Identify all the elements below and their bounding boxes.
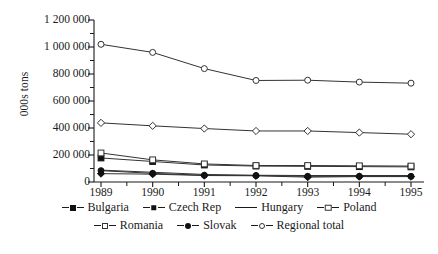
series-marker-regional-total: [253, 77, 259, 83]
legend-line-segment: [62, 207, 69, 208]
legend-symbol-czech-rep: [143, 202, 165, 214]
series-marker-regional-total: [98, 41, 104, 47]
series-marker-poland: [201, 125, 208, 132]
series-marker-romania: [305, 163, 311, 169]
legend-item-hungary[interactable]: Hungary: [235, 201, 303, 214]
legend-marker-circle-filled-icon: [185, 223, 191, 229]
x-axis-tick-label: 1991: [181, 186, 227, 199]
legend-item-romania[interactable]: Romania: [94, 219, 163, 232]
series-marker-regional-total: [150, 49, 156, 55]
legend-label-slovak: Slovak: [203, 219, 236, 232]
legend-line-segment: [177, 225, 184, 226]
series-marker-slovak: [356, 173, 362, 179]
series-marker-slovak: [305, 173, 311, 179]
series-marker-romania: [356, 163, 362, 169]
legend-label-hungary: Hungary: [261, 201, 303, 214]
legend-line-segment: [77, 207, 84, 208]
series-marker-regional-total: [408, 80, 414, 86]
y-axis-tick-label: 1 000 000: [28, 41, 90, 53]
legend-line-segment: [192, 225, 199, 226]
series-marker-slovak: [98, 168, 104, 174]
legend-label-romania: Romania: [120, 219, 163, 232]
legend-line-segment: [317, 207, 324, 208]
legend-line-segment: [109, 225, 116, 226]
series-marker-slovak: [253, 173, 259, 179]
series-marker-poland: [304, 127, 311, 134]
x-axis-tick-label: 1990: [130, 186, 176, 199]
series-marker-poland: [356, 129, 363, 136]
legend-line-segment: [235, 207, 257, 208]
y-axis-tick-label: 800 000: [28, 68, 90, 80]
legend-marker-diamond-filled-icon: [70, 205, 76, 211]
series-marker-poland: [149, 122, 156, 129]
legend-label-czech-rep: Czech Rep: [169, 201, 221, 214]
series-marker-romania: [150, 157, 156, 163]
y-axis-tick-label: 1 200 000: [28, 14, 90, 26]
legend-item-czech-rep[interactable]: Czech Rep: [143, 201, 221, 214]
legend-label-bulgaria: Bulgaria: [88, 201, 129, 214]
legend-marker-square-filled-icon: [151, 205, 157, 211]
legend-symbol-poland: [317, 202, 339, 214]
legend-symbol-regional-total: [251, 220, 273, 232]
series-marker-romania: [408, 163, 414, 169]
legend-marker-circle-open-icon: [259, 223, 265, 229]
series-marker-regional-total: [305, 77, 311, 83]
legend-symbol-romania: [94, 220, 116, 232]
legend-symbol-bulgaria: [62, 202, 84, 214]
legend-marker-square-open-icon: [102, 223, 108, 229]
legend-symbol-slovak: [177, 220, 199, 232]
x-axis-tick-label: 1994: [336, 186, 382, 199]
x-axis-tick-label: 1993: [285, 186, 331, 199]
x-axis-tick-label: 1989: [78, 186, 124, 199]
series-marker-poland: [252, 127, 259, 134]
legend-line-segment: [266, 225, 273, 226]
series-marker-regional-total: [201, 66, 207, 72]
legend-item-poland[interactable]: Poland: [317, 201, 376, 214]
series-marker-slovak: [150, 170, 156, 176]
y-axis-tick-label: 600 000: [28, 95, 90, 107]
series-marker-regional-total: [356, 79, 362, 85]
legend-item-bulgaria[interactable]: Bulgaria: [62, 201, 129, 214]
legend-symbol-hungary: [235, 202, 257, 214]
legend-line-segment: [251, 225, 258, 226]
series-marker-poland: [97, 119, 104, 126]
series-marker-slovak: [201, 172, 207, 178]
series-marker-romania: [201, 161, 207, 167]
legend-row: RomaniaSlovakRegional total: [0, 219, 438, 232]
legend-row: BulgariaCzech RepHungaryPoland: [0, 201, 438, 214]
series-marker-romania: [98, 150, 104, 156]
x-axis-tick-label: 1995: [388, 186, 434, 199]
legend-line-segment: [158, 207, 165, 208]
legend-line-segment: [143, 207, 150, 208]
series-marker-romania: [253, 163, 259, 169]
series-marker-slovak: [408, 173, 414, 179]
legend-label-poland: Poland: [343, 201, 376, 214]
chart-legend: BulgariaCzech RepHungaryPoland RomaniaSl…: [0, 201, 438, 245]
legend-label-regional-total: Regional total: [277, 219, 345, 232]
chart-figure: 000s tons 0200 000400 000600 000800 0001…: [0, 0, 438, 254]
legend-line-segment: [94, 225, 101, 226]
series-marker-poland: [407, 131, 414, 138]
legend-marker-diamond-open-icon: [325, 204, 332, 211]
legend-item-slovak[interactable]: Slovak: [177, 219, 236, 232]
legend-item-regional-total[interactable]: Regional total: [251, 219, 345, 232]
y-axis-tick-label: 200 000: [28, 149, 90, 161]
legend-line-segment: [332, 207, 339, 208]
y-axis-tick-label: 400 000: [28, 122, 90, 134]
x-axis-tick-label: 1992: [233, 186, 279, 199]
